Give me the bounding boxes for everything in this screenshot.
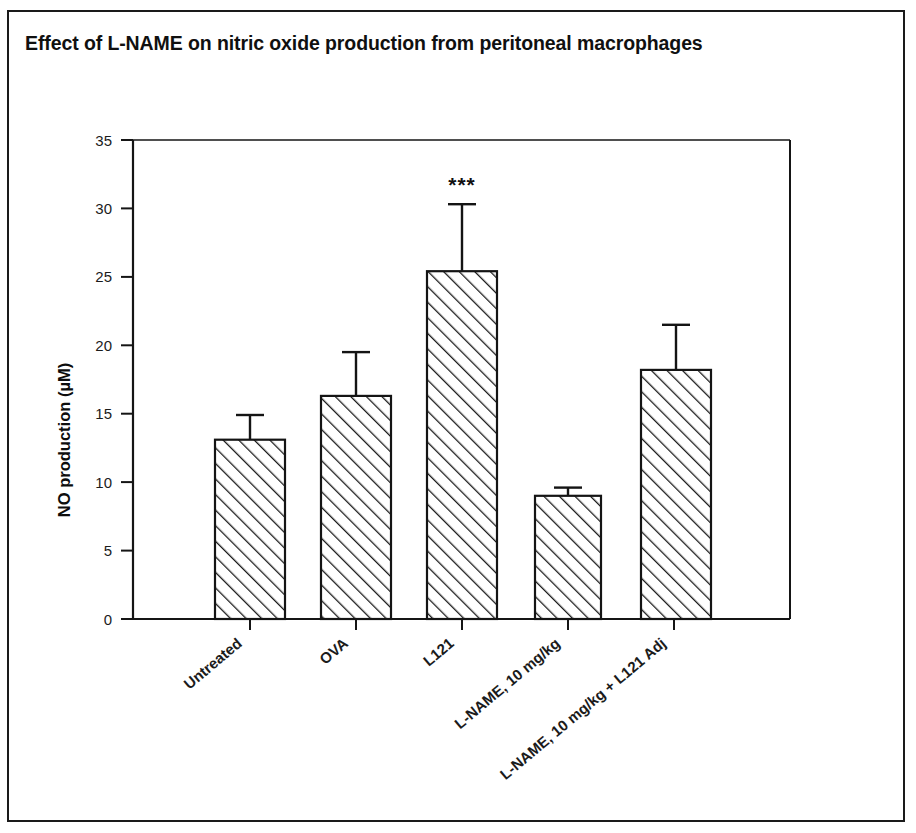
chart-title: Effect of L-NAME on nitric oxide product… — [25, 32, 895, 55]
figure-page-border — [7, 10, 905, 822]
